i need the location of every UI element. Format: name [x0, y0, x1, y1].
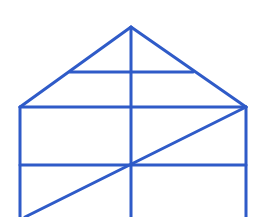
- roof-left-edge-line: [20, 27, 131, 107]
- diagram-canvas: [0, 0, 265, 217]
- roof-right-edge-line: [131, 27, 246, 107]
- house-diagram: [0, 0, 265, 217]
- diagonal-line: [25, 107, 246, 217]
